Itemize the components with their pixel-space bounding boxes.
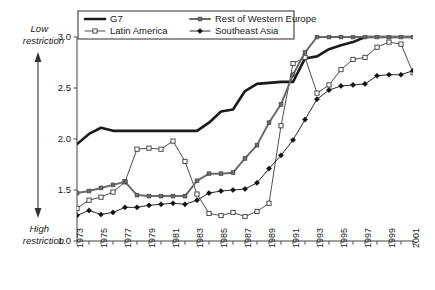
x-tick-label: 1991 xyxy=(291,228,301,248)
x-tick-label: 1999 xyxy=(387,228,397,248)
low-restriction-label-line2: restriction xyxy=(23,35,64,46)
x-tick-label: 1975 xyxy=(99,228,109,248)
legend-label-rest-of-western-europe: Rest of Western Europe xyxy=(215,13,316,24)
legend-label-latin-america: Latin America xyxy=(110,25,168,36)
x-axis: 1973197519771979198119831985198719891991… xyxy=(75,228,421,248)
low-restriction-label-line1: Low xyxy=(31,23,50,34)
high-restriction-label-line2: restriction xyxy=(23,235,64,246)
legend-label-southeast-asia: Southeast Asia xyxy=(215,25,279,36)
chart-legend: G7Rest of Western EuropeLatin AmericaSou… xyxy=(78,11,316,39)
x-tick-label: 2001 xyxy=(411,228,421,248)
chart-container: 3.02.52.01.51.0 197319751977197919811983… xyxy=(0,0,435,290)
x-tick-label: 1997 xyxy=(363,228,373,248)
x-tick-label: 1973 xyxy=(75,228,85,248)
x-tick-label: 1983 xyxy=(195,228,205,248)
x-tick-label: 1979 xyxy=(147,228,157,248)
y-tick-label: 2.0 xyxy=(58,133,71,144)
x-tick-label: 1987 xyxy=(243,228,253,248)
y-tick-label: 2.5 xyxy=(58,82,71,93)
series-g7 xyxy=(77,37,413,144)
x-tick-label: 1985 xyxy=(219,228,229,248)
x-tick-label: 1993 xyxy=(315,228,325,248)
legend-label-g7: G7 xyxy=(110,13,123,24)
x-tick-label: 1995 xyxy=(339,228,349,248)
y-axis: 3.02.52.01.51.0 xyxy=(58,31,77,246)
x-tick-label: 1981 xyxy=(171,228,181,248)
high-restriction-label-line1: High xyxy=(29,223,49,234)
line-chart-plot: 3.02.52.01.51.0 197319751977197919811983… xyxy=(0,0,435,290)
y-tick-label: 1.5 xyxy=(58,184,71,195)
x-tick-label: 1977 xyxy=(123,228,133,248)
x-tick-label: 1989 xyxy=(267,228,277,248)
data-series-group xyxy=(74,35,415,219)
